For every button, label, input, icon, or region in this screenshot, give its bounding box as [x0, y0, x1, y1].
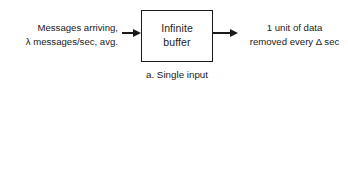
single-output-label: 1 unit of data removed every Δ sec [243, 21, 346, 48]
panel-multiple-input: λ1 λ2 ⋮ λm Infinite buffer [0, 90, 348, 180]
single-input-source-line1: Messages arriving, [6, 21, 118, 35]
single-input-source-label: Messages arriving, λ messages/sec, avg. [6, 21, 118, 48]
panel-a-caption: a. Single input [127, 69, 227, 80]
single-input-buffer-line1: Infinite [161, 22, 193, 36]
single-output-line1: 1 unit of data [243, 21, 346, 35]
single-output-arrow-shaft [213, 32, 231, 34]
single-output-arrow-head [230, 29, 238, 37]
queueing-buffer-figure: Messages arriving, λ messages/sec, avg. … [0, 0, 348, 180]
single-input-arrow-head [133, 29, 141, 37]
single-input-buffer-line2: buffer [163, 36, 190, 50]
panel-single-input: Messages arriving, λ messages/sec, avg. … [0, 0, 348, 90]
single-output-line2: removed every Δ sec [243, 35, 346, 49]
single-input-source-line2: λ messages/sec, avg. [6, 35, 118, 49]
single-input-buffer-box: Infinite buffer [141, 10, 213, 62]
